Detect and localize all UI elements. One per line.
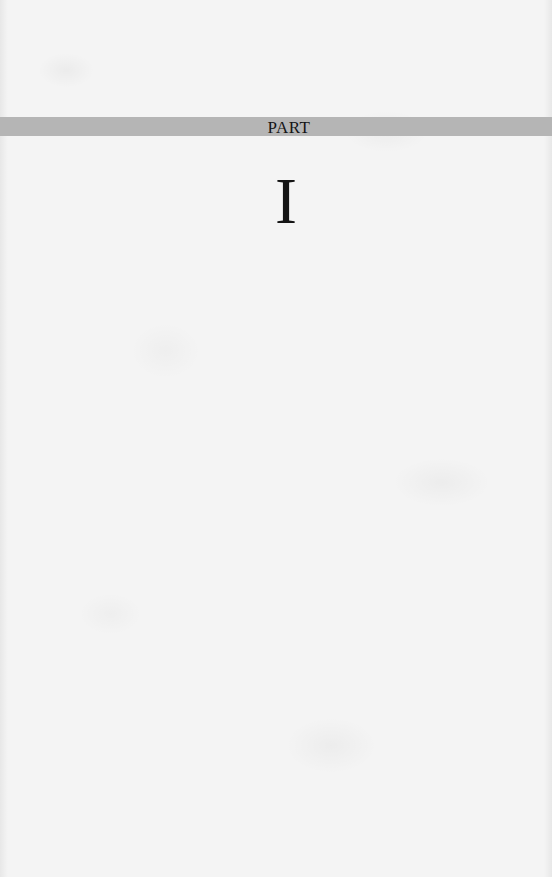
part-heading-band: PART xyxy=(0,117,552,136)
book-page: PART I xyxy=(0,0,552,877)
part-number: I xyxy=(0,168,552,234)
part-label: PART xyxy=(242,118,311,137)
